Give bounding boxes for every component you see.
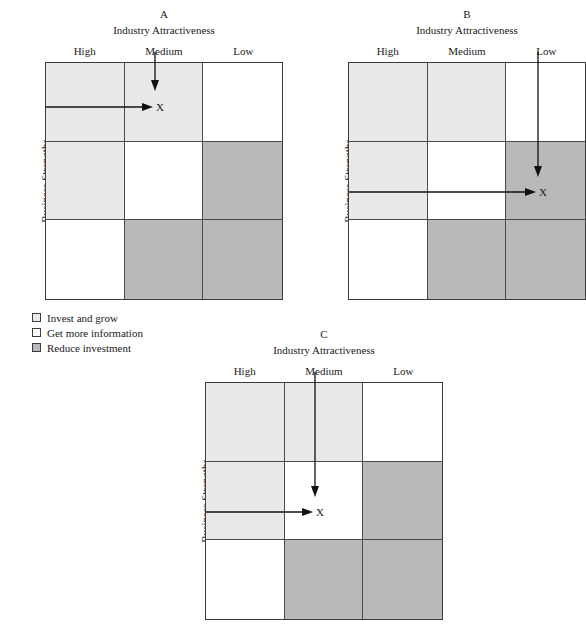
position-marker-b: X	[539, 187, 547, 198]
column-header-medium: Medium	[124, 45, 203, 57]
column-headers-b: High Medium Low	[348, 45, 586, 57]
x-axis-title-c: Industry Attractiveness	[205, 344, 443, 356]
position-marker-c: X	[316, 507, 324, 518]
column-header-high: High	[348, 45, 427, 57]
matrix-cell	[363, 462, 442, 541]
x-axis-title-b: Industry Attractiveness	[348, 24, 586, 36]
matrix-cell	[203, 63, 282, 142]
matrix-cell	[506, 63, 585, 142]
legend-label-invest: Invest and grow	[47, 312, 118, 324]
legend-swatch-invest	[32, 313, 41, 322]
matrix-cell	[46, 220, 125, 299]
matrix-panel-c: C Industry Attractiveness High Medium Lo…	[205, 320, 443, 620]
matrix-cell	[428, 142, 507, 221]
legend-swatch-info	[32, 328, 41, 337]
matrix-cell	[349, 142, 428, 221]
column-header-high: High	[45, 45, 124, 57]
matrix-cell	[206, 540, 285, 619]
matrix-grid-c	[205, 382, 443, 620]
matrix-grid-a	[45, 62, 283, 300]
matrix-cell	[285, 540, 364, 619]
matrix-cell	[203, 220, 282, 299]
panel-letter-c: C	[205, 328, 443, 340]
matrix-cell	[363, 540, 442, 619]
column-header-medium: Medium	[284, 365, 363, 377]
matrix-grid-b	[348, 62, 586, 300]
column-header-low: Low	[204, 45, 283, 57]
matrix-cell	[506, 142, 585, 221]
matrix-cell	[349, 63, 428, 142]
legend-item-reduce: Reduce investment	[32, 340, 143, 355]
matrix-cell	[285, 383, 364, 462]
column-header-high: High	[205, 365, 284, 377]
column-headers-c: High Medium Low	[205, 365, 443, 377]
x-axis-title-a: Industry Attractiveness	[45, 24, 283, 36]
legend-item-info: Get more information	[32, 325, 143, 340]
legend: Invest and grow Get more information Red…	[32, 310, 143, 355]
matrix-cell	[203, 142, 282, 221]
matrix-panel-b: B Industry Attractiveness High Medium Lo…	[348, 0, 586, 300]
legend-label-info: Get more information	[47, 327, 143, 339]
matrix-cell	[125, 220, 204, 299]
matrix-cell	[46, 142, 125, 221]
legend-item-invest: Invest and grow	[32, 310, 143, 325]
legend-label-reduce: Reduce investment	[47, 342, 131, 354]
panel-letter-a: A	[45, 8, 283, 20]
matrix-cell	[363, 383, 442, 462]
column-header-medium: Medium	[427, 45, 506, 57]
matrix-cell	[285, 462, 364, 541]
matrix-panel-a: A Industry Attractiveness High Medium Lo…	[45, 0, 283, 300]
column-header-low: Low	[364, 365, 443, 377]
matrix-cell	[506, 220, 585, 299]
column-header-low: Low	[507, 45, 586, 57]
panel-letter-b: B	[348, 8, 586, 20]
matrix-cell	[206, 383, 285, 462]
matrix-cell	[46, 63, 125, 142]
matrix-cell	[349, 220, 428, 299]
matrix-cell	[428, 220, 507, 299]
legend-swatch-reduce	[32, 343, 41, 352]
matrix-cell	[428, 63, 507, 142]
position-marker-a: X	[156, 102, 164, 113]
column-headers-a: High Medium Low	[45, 45, 283, 57]
matrix-cell	[206, 462, 285, 541]
matrix-cell	[125, 142, 204, 221]
